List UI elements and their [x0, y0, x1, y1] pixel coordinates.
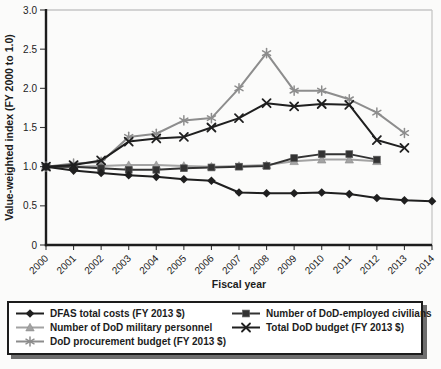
- diamond-marker: [235, 188, 244, 197]
- x-tick-label: 2002: [82, 252, 106, 276]
- triangle-legend-icon: [15, 321, 45, 334]
- x-tick-label: 2003: [110, 252, 134, 276]
- y-axis: 00.51.01.52.02.53.0: [23, 5, 46, 251]
- diamond-marker: [290, 189, 299, 198]
- diamond-marker: [152, 173, 161, 182]
- legend-item: DoD procurement budget (FY 2013 $): [15, 335, 231, 348]
- legend-label: Total DoD budget (FY 2013 $): [266, 322, 404, 333]
- diamond-marker: [180, 175, 189, 184]
- square-marker: [263, 162, 270, 169]
- y-tick-label: 3.0: [23, 5, 37, 16]
- x-tick-label: 2012: [358, 252, 382, 276]
- x-tick-label: 2008: [247, 252, 271, 276]
- legend-item: DFAS total costs (FY 2013 $): [15, 307, 231, 320]
- legend-label: DoD procurement budget (FY 2013 $): [50, 336, 226, 347]
- asterisk-legend-icon: [15, 335, 45, 348]
- legend-label: Number of DoD-employed civilians: [266, 308, 432, 319]
- chart-plot-area: 00.51.01.52.02.53.0200020012002200320042…: [0, 0, 441, 300]
- x-tick-label: 2009: [275, 252, 299, 276]
- x-tick-label: 2005: [165, 252, 189, 276]
- legend-label: DFAS total costs (FY 2013 $): [50, 308, 185, 319]
- x-tick-label: 2004: [137, 252, 161, 276]
- x-axis-title: Fiscal year: [212, 278, 266, 290]
- y-tick-label: 0.5: [23, 200, 37, 211]
- x-tick-label: 2014: [413, 252, 437, 276]
- x-tick-label: 2001: [54, 252, 78, 276]
- square-marker: [208, 164, 215, 171]
- diamond-marker: [345, 190, 354, 199]
- series-line: [46, 53, 404, 167]
- diamond-marker: [317, 188, 326, 197]
- legend-item: Number of DoD military personnel: [15, 321, 231, 334]
- line-chart: 00.51.01.52.02.53.0200020012002200320042…: [0, 0, 441, 300]
- x-legend-icon: [231, 321, 261, 334]
- square-marker: [318, 151, 325, 158]
- square-marker: [153, 166, 160, 173]
- square-legend-icon: [231, 307, 261, 320]
- y-tick-label: 2.5: [23, 44, 37, 55]
- legend-item: Total DoD budget (FY 2013 $): [231, 321, 415, 334]
- y-tick-label: 2.0: [23, 83, 37, 94]
- square-marker: [180, 165, 187, 172]
- diamond-legend-icon: [15, 307, 45, 320]
- square-marker: [291, 155, 298, 162]
- x-tick-label: 2006: [192, 252, 216, 276]
- diamond-marker: [373, 194, 382, 203]
- legend-grid: DFAS total costs (FY 2013 $)Number of Do…: [15, 307, 415, 348]
- y-tick-label: 1.0: [23, 161, 37, 172]
- square-marker: [373, 156, 380, 163]
- x-tick-label: 2011: [331, 252, 354, 275]
- y-tick-label: 0: [31, 240, 37, 251]
- legend-item: Number of DoD-employed civilians: [231, 307, 415, 320]
- diamond-marker: [207, 176, 216, 185]
- diamond-marker: [26, 309, 35, 318]
- x-tick-label: 2007: [220, 252, 244, 276]
- x-tick-label: 2000: [27, 252, 51, 276]
- diamond-marker: [428, 197, 437, 206]
- square-marker: [346, 151, 353, 158]
- y-tick-label: 1.5: [23, 122, 37, 133]
- x-tick-label: 2010: [303, 252, 327, 276]
- legend-label: Number of DoD military personnel: [50, 322, 212, 333]
- square-marker: [236, 163, 243, 170]
- y-axis-title: Value-weighted index (FY 2000 to 1.0): [3, 34, 15, 221]
- x-tick-label: 2013: [385, 252, 409, 276]
- x-axis: 2000200120022003200420052006200720082009…: [27, 245, 437, 276]
- diamond-marker: [262, 189, 271, 198]
- square-marker: [243, 310, 250, 317]
- chart-legend: DFAS total costs (FY 2013 $)Number of Do…: [7, 301, 423, 355]
- diamond-marker: [400, 196, 409, 205]
